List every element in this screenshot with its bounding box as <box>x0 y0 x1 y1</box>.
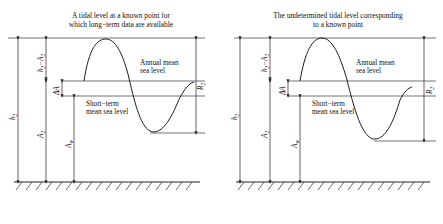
panel-right-title-line2: to a known point <box>313 20 364 29</box>
short-term-label-right-line2: mean sea level <box>312 108 354 116</box>
dim-label-a-w: Aw <box>65 140 74 149</box>
short-term-label-line1: Short−term <box>86 100 119 108</box>
dim-label-a-w-right: Aw <box>291 140 300 149</box>
annual-mean-label-line1: Annual mean <box>140 59 179 67</box>
panel-left-title-line1: A tidal level at a known point for <box>72 11 170 20</box>
dim-label-a-right: A2 <box>261 131 270 139</box>
tidal-wave-curve <box>84 39 194 132</box>
tidal-wave-curve-right <box>300 38 412 139</box>
annual-mean-label-right-line2: sea level <box>356 67 381 75</box>
panel-left-title-line2: which long−term data are available <box>69 20 174 29</box>
annual-mean-label-line2: sea level <box>140 67 165 75</box>
dim-label-delta-a: ΔA <box>53 86 61 96</box>
dim-label-h: h2 <box>9 113 18 120</box>
short-term-label-line2: mean sea level <box>86 108 128 116</box>
dim-label-delta-a-right: ΔA <box>279 86 287 96</box>
short-term-label-right-line1: Short−term <box>312 100 345 108</box>
dim-label-a: A2 <box>37 131 46 139</box>
dim-label-r: R2 <box>197 83 206 91</box>
dim-label-h-minus-a-right: h2−A2 <box>261 54 270 72</box>
ground-hatching <box>16 182 192 190</box>
tidal-level-definition-figure: A tidal level at a known point for which… <box>0 0 443 224</box>
dim-label-r-right: R2 <box>426 87 435 95</box>
panel-right-title-line1: The undetermined tidal level correspondi… <box>273 11 403 20</box>
ground-hatching-right <box>238 182 424 190</box>
dim-label-h-minus-a: h2−A2 <box>37 54 46 72</box>
panel-left: A tidal level at a known point for which… <box>8 11 206 190</box>
annual-mean-label-right-line1: Annual mean <box>356 59 395 67</box>
dim-label-h-right: h2 <box>231 113 240 120</box>
panel-right: The undetermined tidal level correspondi… <box>231 11 436 190</box>
